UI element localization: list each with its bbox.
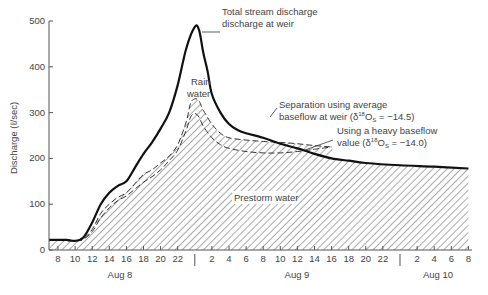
x-tick-label: 8	[466, 253, 471, 264]
y-tick-label: 500	[29, 15, 45, 26]
x-tick-label: 18	[138, 253, 149, 264]
x-tick-label: 22	[172, 253, 183, 264]
x-tick-label: 12	[292, 253, 303, 264]
x-tick-label: 14	[104, 253, 115, 264]
annotation-total-line1: Total stream discharge	[222, 6, 318, 17]
x-tick-label: 18	[343, 253, 354, 264]
x-tick-label: 4	[432, 253, 437, 264]
leader-separation	[270, 108, 277, 117]
chart-canvas: 0100200300400500 81012141618202224681012…	[0, 0, 488, 295]
y-tick-label: 0	[40, 244, 45, 255]
annotation-heavy-line1: Using a heavy baseflow	[337, 125, 437, 136]
x-tick-label: 8	[55, 253, 60, 264]
x-tick-label: 2	[414, 253, 419, 264]
x-tick-label: 16	[121, 253, 132, 264]
annotation-heavy-line2: value (δ18OS = −14.0)	[337, 137, 427, 149]
x-tick-label: 12	[87, 253, 98, 264]
x-tick-label: 10	[70, 253, 81, 264]
annotation-prestorm: Prestorm water	[234, 192, 298, 203]
x-tick-label: 22	[378, 253, 389, 264]
day-label-aug8: Aug 8	[108, 269, 133, 280]
hydrograph-chart: 0100200300400500 81012141618202224681012…	[0, 0, 488, 295]
x-tick-label: 4	[226, 253, 231, 264]
x-tick-label: 6	[243, 253, 248, 264]
y-axis-label: Discharge (ℓ/sec)	[8, 102, 19, 174]
x-tick-label: 10	[275, 253, 286, 264]
y-tick-label: 400	[29, 61, 45, 72]
annotation-separation-line1: Separation using average	[279, 99, 387, 110]
x-tick-label: 6	[449, 253, 454, 264]
y-tick-label: 300	[29, 107, 45, 118]
x-tick-label: 20	[361, 253, 372, 264]
annotation-rain-line2: water	[186, 88, 210, 99]
day-label-aug10: Aug 10	[423, 269, 453, 280]
annotation-separation-line2: baseflow at weir (δ18OS = −14.5)	[279, 111, 414, 123]
x-tick-label: 20	[155, 253, 166, 264]
annotation-total-line2: discharge at weir	[222, 18, 294, 29]
x-tick-label: 16	[326, 253, 337, 264]
annotation-rain-line1: Rain	[191, 76, 211, 87]
x-tick-label: 2	[209, 253, 214, 264]
y-tick-label: 200	[29, 152, 45, 163]
x-tick-label: 8	[261, 253, 266, 264]
day-label-aug9: Aug 9	[285, 269, 310, 280]
y-tick-label: 100	[29, 198, 45, 209]
x-tick-label: 14	[309, 253, 320, 264]
